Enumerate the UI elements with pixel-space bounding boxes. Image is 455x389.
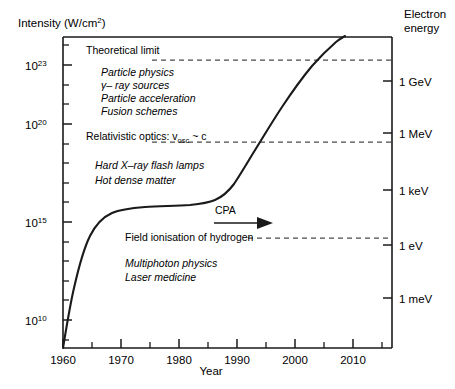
x-axis-title: Year [199, 365, 222, 377]
annotation-hot-dense-matter: Hot dense matter [95, 174, 176, 186]
right-tick-label-3: 1 eV [399, 240, 423, 252]
annotation-particle-acceleration: Particle acceleration [101, 92, 196, 104]
annotation-gamma-ray-sources: γ– ray sources [101, 79, 170, 91]
x-tick-label-3: 1990 [224, 354, 250, 366]
x-tick-label-2: 1980 [166, 354, 192, 366]
annotation-multiphoton-physics: Multiphoton physics [125, 257, 218, 269]
y-axis-right-tick-labels: 1 GeV 1 MeV 1 keV 1 eV 1 meV [399, 76, 433, 305]
y-axis-left-major-ticks [63, 65, 72, 320]
right-tick-label-4: 1 meV [399, 293, 433, 305]
annotation-field-ionisation: Field ionisation of hydrogen [125, 231, 254, 243]
annotation-relativistic-optics: Relativistic optics: vosc ~ c [86, 130, 207, 145]
annotation-cpa: CPA [215, 204, 236, 216]
y-tick-label-0: 1023 [25, 59, 47, 73]
y-axis-title: Intensity (W/cm2) [18, 16, 106, 29]
annotation-theoretical-limit: Theoretical limit [86, 44, 160, 56]
x-tick-label-5: 2010 [340, 354, 366, 366]
annotation-fusion-schemes: Fusion schemes [101, 105, 178, 117]
right-axis-title-line2: energy [404, 22, 439, 34]
y-axis-left-minor-ticks [63, 45, 69, 340]
y-axis-left-tick-labels: 1023 1020 1015 1010 [25, 59, 47, 328]
y-axis-right-ticks [383, 81, 392, 298]
chart-svg: Intensity (W/cm2) Electron energy Year 1… [0, 0, 455, 389]
x-tick-label-1: 1970 [108, 354, 134, 366]
annotation-laser-medicine: Laser medicine [125, 271, 196, 283]
x-tick-label-4: 2000 [282, 354, 308, 366]
right-tick-label-1: 1 MeV [399, 128, 433, 140]
right-tick-label-2: 1 keV [399, 185, 429, 197]
intensity-vs-year-chart: Intensity (W/cm2) Electron energy Year 1… [0, 0, 455, 389]
y-tick-label-2: 1015 [25, 216, 47, 230]
y-tick-label-3: 1010 [25, 314, 47, 328]
annotation-hard-xray-flash-lamps: Hard X–ray flash lamps [95, 159, 205, 171]
y-tick-label-1: 1020 [25, 118, 47, 132]
annotation-particle-physics: Particle physics [101, 66, 175, 78]
right-tick-label-0: 1 GeV [399, 76, 432, 88]
cpa-arrow [214, 217, 273, 229]
x-tick-label-0: 1960 [50, 354, 76, 366]
right-axis-title-line1: Electron [404, 8, 446, 20]
